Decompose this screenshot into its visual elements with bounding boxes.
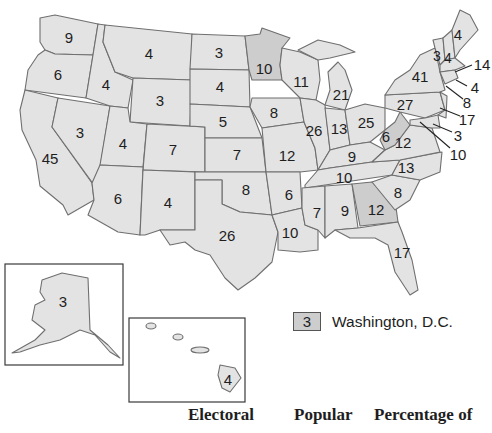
label-sd: 4 <box>216 78 224 95</box>
label-id: 4 <box>102 76 110 93</box>
label-az: 6 <box>114 190 122 207</box>
label-co: 7 <box>169 141 177 158</box>
label-oh: 25 <box>358 114 375 131</box>
label-al: 9 <box>341 202 349 219</box>
label-ms: 7 <box>313 204 321 221</box>
label-ak: 3 <box>59 293 67 310</box>
label-md: 10 <box>450 146 467 163</box>
label-hi: 4 <box>224 371 232 388</box>
label-me: 4 <box>454 26 462 43</box>
label-nh: 4 <box>444 50 452 66</box>
label-ut: 4 <box>119 135 127 152</box>
leader-ct <box>446 86 463 99</box>
label-or: 6 <box>54 66 62 83</box>
label-fl: 17 <box>394 244 411 261</box>
label-ks: 7 <box>233 146 241 163</box>
label-ok: 8 <box>242 181 250 198</box>
label-de: 3 <box>454 127 462 144</box>
dc-legend-label: Washington, D.C. <box>332 312 453 331</box>
label-ca: 45 <box>42 150 59 167</box>
column-header-percentage: Percentage of <box>374 405 472 425</box>
label-wi: 11 <box>293 73 309 90</box>
label-nj: 17 <box>459 111 476 128</box>
label-wa: 9 <box>65 29 73 46</box>
table-column-headers: Electoral Popular Percentage of <box>188 405 492 433</box>
us-electoral-map: 9 6 45 3 4 4 3 4 6 7 4 3 4 5 7 8 26 10 8… <box>0 0 492 433</box>
label-mn: 10 <box>256 60 273 77</box>
hawaii-maui-molokai <box>191 347 209 353</box>
label-ia: 8 <box>270 104 278 121</box>
label-nm: 4 <box>164 194 172 211</box>
label-mt: 4 <box>145 45 153 62</box>
label-wy: 3 <box>156 92 164 109</box>
label-tn: 10 <box>336 169 353 186</box>
label-nv: 3 <box>76 124 84 141</box>
label-in: 13 <box>331 120 348 137</box>
label-ne: 5 <box>219 113 227 130</box>
label-mo: 12 <box>279 147 296 164</box>
label-il: 26 <box>306 122 323 139</box>
label-va: 12 <box>395 134 412 151</box>
leader-ri <box>456 80 467 86</box>
state-pennsylvania <box>385 92 445 118</box>
label-ar: 6 <box>285 186 293 203</box>
hawaii-kauai <box>146 323 156 329</box>
label-sc: 8 <box>394 184 402 201</box>
label-nd: 3 <box>215 44 223 61</box>
label-ct: 8 <box>463 94 471 111</box>
column-header-popular: Popular <box>294 405 353 425</box>
label-nc: 13 <box>398 159 415 176</box>
label-ga: 12 <box>368 201 385 218</box>
dc-legend-swatch: 3 <box>293 312 321 331</box>
label-tx: 26 <box>219 227 236 244</box>
label-pa: 27 <box>397 96 414 113</box>
label-wv: 6 <box>382 128 390 145</box>
hawaii-oahu <box>173 334 183 340</box>
label-ri: 4 <box>471 79 479 96</box>
label-ky: 9 <box>348 148 356 165</box>
column-header-electoral: Electoral <box>188 405 254 425</box>
label-mi: 21 <box>333 86 350 103</box>
label-la: 10 <box>282 224 299 241</box>
label-vt: 3 <box>433 48 441 64</box>
label-ny: 41 <box>412 68 429 85</box>
label-ma: 14 <box>474 56 491 73</box>
